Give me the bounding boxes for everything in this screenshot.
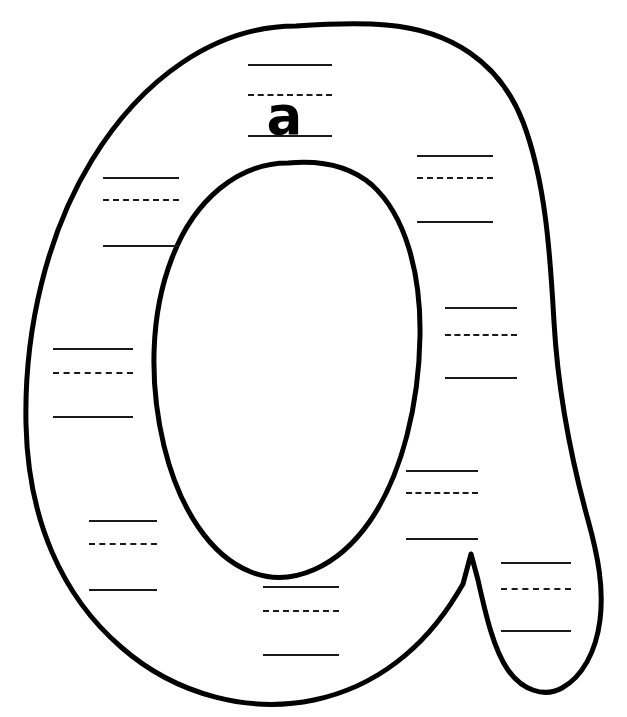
- guide-group: [417, 155, 493, 224]
- guide-line-solid-top: [248, 64, 332, 66]
- guide-line-solid-top: [417, 155, 493, 157]
- guide-line-solid-bottom: [417, 221, 493, 223]
- guide-group-with-model: a: [248, 64, 332, 138]
- guide-group: [103, 177, 179, 248]
- guide-line-solid-bottom: [501, 630, 571, 632]
- guide-group: [406, 470, 478, 541]
- worksheet-page: a: [0, 0, 627, 717]
- guide-line-solid-bottom: [103, 245, 179, 247]
- guide-line-dashed-middle: [103, 199, 179, 201]
- guide-line-dashed-middle: [406, 492, 478, 494]
- guide-group: [53, 348, 133, 419]
- guide-line-dashed-middle: [501, 588, 571, 590]
- guide-line-solid-top: [103, 177, 179, 179]
- guide-line-solid-bottom: [263, 654, 339, 656]
- guide-line-solid-top: [263, 586, 339, 588]
- guide-line-dashed-middle: [445, 334, 517, 336]
- guide-line-dashed-middle: [263, 610, 339, 612]
- guide-line-dashed-middle: [417, 177, 493, 179]
- guide-line-solid-bottom: [53, 416, 133, 418]
- guide-line-solid-top: [406, 470, 478, 472]
- guide-line-solid-bottom: [445, 377, 517, 379]
- guide-line-solid-bottom: [89, 589, 157, 591]
- model-letter-a: a: [266, 89, 302, 142]
- guide-line-solid-top: [53, 348, 133, 350]
- guide-line-solid-bottom: [406, 538, 478, 540]
- guide-group: [263, 586, 339, 657]
- guide-group: [445, 307, 517, 380]
- guide-line-solid-top: [445, 307, 517, 309]
- guide-line-solid-top: [89, 520, 157, 522]
- guide-line-dashed-middle: [53, 372, 133, 374]
- guide-line-dashed-middle: [89, 543, 157, 545]
- guide-group: [501, 562, 571, 633]
- guide-line-solid-top: [501, 562, 571, 564]
- guide-group: [89, 520, 157, 592]
